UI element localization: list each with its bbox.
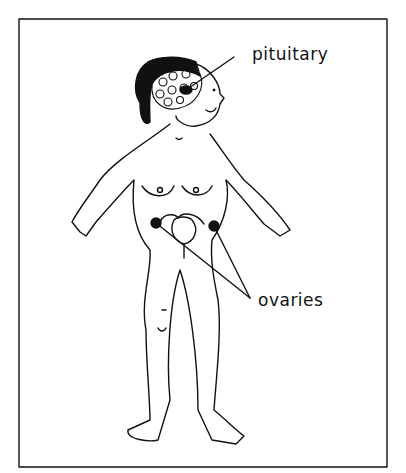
uterus xyxy=(160,214,204,258)
figure-drawing xyxy=(0,0,406,473)
smile xyxy=(206,108,216,112)
ovaries-pointer-left xyxy=(156,223,250,298)
body-outline xyxy=(72,124,290,444)
border xyxy=(19,19,387,467)
ovaries-label: ovaries xyxy=(258,290,323,310)
ovaries-pointer-right xyxy=(214,226,250,298)
pituitary-label: pituitary xyxy=(252,44,328,64)
